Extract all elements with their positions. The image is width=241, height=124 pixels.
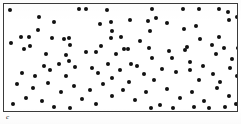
data-point: [46, 81, 50, 85]
data-point: [110, 29, 114, 33]
data-point: [218, 80, 222, 84]
data-point: [28, 44, 32, 48]
data-point: [201, 64, 205, 68]
data-point: [185, 45, 189, 49]
data-point: [62, 37, 66, 41]
data-point: [182, 27, 186, 31]
data-point: [165, 87, 169, 91]
data-point: [19, 35, 23, 39]
data-point: [138, 39, 142, 43]
data-point: [135, 64, 139, 68]
data-point: [52, 20, 56, 24]
data-point: [133, 98, 137, 102]
data-point: [121, 88, 125, 92]
data-point: [222, 46, 226, 50]
data-point: [119, 35, 123, 39]
data-point: [109, 20, 113, 24]
point-field: [4, 4, 237, 111]
data-point: [33, 74, 37, 78]
data-point: [227, 18, 231, 22]
data-point: [84, 50, 88, 54]
data-point: [128, 18, 132, 22]
data-point: [59, 90, 63, 94]
data-point: [150, 7, 154, 11]
data-point: [188, 68, 192, 72]
data-point: [109, 36, 113, 40]
data-point: [8, 8, 12, 12]
data-point: [234, 102, 238, 106]
data-point: [147, 46, 151, 50]
data-point: [64, 74, 68, 78]
data-point: [197, 7, 201, 11]
data-point: [27, 35, 31, 39]
data-point: [110, 76, 114, 80]
data-point: [73, 65, 77, 69]
data-point: [77, 7, 81, 11]
data-point: [174, 70, 178, 74]
data-point: [127, 80, 131, 84]
data-point: [48, 68, 52, 72]
data-point: [226, 10, 230, 14]
data-point: [118, 68, 122, 72]
data-point: [149, 106, 153, 110]
data-point: [44, 52, 48, 56]
plot-frame: [3, 3, 238, 112]
data-point: [228, 66, 232, 70]
data-point: [99, 44, 103, 48]
data-point: [171, 106, 175, 110]
data-point: [235, 74, 238, 78]
data-point: [158, 103, 162, 107]
data-point: [106, 62, 110, 66]
data-point: [22, 47, 26, 51]
data-point: [217, 7, 221, 11]
data-point: [165, 21, 169, 25]
data-point: [64, 53, 68, 57]
data-point: [110, 94, 114, 98]
data-point: [40, 99, 44, 103]
data-point: [20, 71, 24, 75]
data-point: [126, 47, 130, 51]
data-point: [11, 102, 15, 106]
data-point: [90, 66, 94, 70]
data-point: [50, 36, 54, 40]
data-point: [57, 62, 61, 66]
data-point: [84, 7, 88, 11]
data-point: [154, 16, 158, 20]
data-point: [202, 99, 206, 103]
data-point: [114, 52, 118, 56]
data-point: [31, 86, 35, 90]
data-point: [181, 7, 185, 11]
data-point: [88, 88, 92, 92]
data-point: [198, 37, 202, 41]
data-point: [146, 19, 150, 23]
data-point: [148, 29, 152, 33]
data-point: [211, 72, 215, 76]
data-point: [236, 46, 238, 50]
data-point: [96, 71, 100, 75]
data-point: [37, 15, 41, 19]
data-point: [210, 43, 214, 47]
data-point: [68, 43, 72, 47]
data-point: [9, 41, 13, 45]
data-point: [207, 106, 211, 110]
scatter-figure: c: [0, 0, 241, 124]
data-point: [67, 36, 71, 40]
data-point: [144, 90, 148, 94]
data-point: [94, 50, 98, 54]
data-point: [188, 60, 192, 64]
data-point: [170, 56, 174, 60]
data-point: [42, 64, 46, 68]
data-point: [160, 67, 164, 71]
data-point: [192, 105, 196, 109]
data-point: [142, 72, 146, 76]
data-point: [68, 106, 72, 110]
data-point: [227, 94, 231, 98]
data-point: [223, 105, 227, 109]
data-point: [72, 84, 76, 88]
data-point: [105, 8, 109, 12]
data-point: [214, 52, 218, 56]
data-point: [230, 57, 234, 61]
figure-panel-label: c: [6, 114, 9, 121]
data-point: [217, 35, 221, 39]
data-point: [67, 59, 71, 63]
